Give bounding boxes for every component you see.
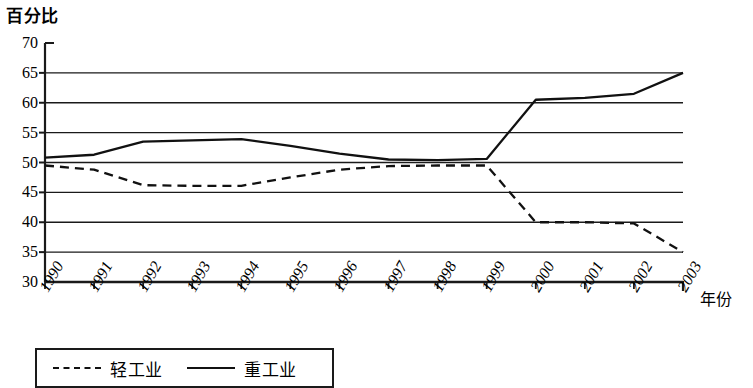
series-line-heavy-industry — [45, 73, 683, 160]
y-tick-label: 60 — [6, 95, 38, 111]
y-tick-label: 30 — [6, 274, 38, 290]
y-tick-label: 70 — [6, 35, 38, 51]
y-tick-label: 40 — [6, 214, 38, 230]
y-tick-label: 35 — [6, 244, 38, 260]
series-line-light-industry — [45, 165, 683, 252]
y-tick-label: 45 — [6, 184, 38, 200]
x-axis-title: 年份 — [700, 286, 732, 310]
legend-label-light-industry: 轻工业 — [110, 356, 163, 381]
solid-line-icon — [187, 362, 235, 374]
y-tick-label: 65 — [6, 65, 38, 81]
legend-entry-heavy-industry: 重工业 — [187, 358, 297, 378]
dashed-line-icon — [53, 362, 101, 374]
y-tick-label: 50 — [6, 155, 38, 171]
y-tick-label: 55 — [6, 125, 38, 141]
legend: 轻工业 重工业 — [35, 348, 334, 388]
legend-label-heavy-industry: 重工业 — [244, 356, 297, 381]
legend-entry-light-industry: 轻工业 — [53, 358, 163, 378]
